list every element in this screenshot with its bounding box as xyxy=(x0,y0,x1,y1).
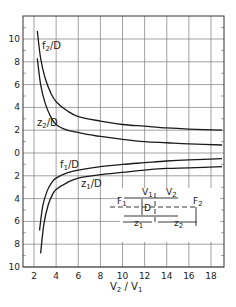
x-tick-label: 12 xyxy=(139,271,150,281)
lens-diagram-inset: V1 V2 F1 F2 D z1 z2 xyxy=(110,187,220,242)
y-tick-label: 0 xyxy=(14,148,20,158)
d-label: D xyxy=(144,203,151,213)
x-tick-label: 8 xyxy=(98,271,104,281)
x-axis-ticks: 24681012141618 xyxy=(31,271,217,281)
y-tick-label: 2 xyxy=(14,171,20,181)
y-tick-label: 6 xyxy=(14,80,20,90)
x-tick-label: 18 xyxy=(205,271,217,281)
x-tick-label: 10 xyxy=(117,271,129,281)
x-axis-label: V2 / V1 xyxy=(110,281,142,294)
curve-label: f2/D xyxy=(42,40,61,53)
y-tick-label: 4 xyxy=(14,194,20,204)
y-axis-ticks: 1086420246810 xyxy=(9,34,21,272)
y-tick-label: 10 xyxy=(9,34,21,44)
curve-label: z1/D xyxy=(81,178,102,191)
x-tick-label: 14 xyxy=(161,271,173,281)
x-tick-label: 2 xyxy=(31,271,37,281)
y-tick-label: 4 xyxy=(14,102,20,112)
y-tick-label: 2 xyxy=(14,125,20,135)
curve-z2-d xyxy=(37,58,222,145)
y-tick-label: 6 xyxy=(14,216,20,226)
curve-f2-d xyxy=(37,31,222,130)
x-tick-label: 16 xyxy=(183,271,195,281)
x-tick-label: 4 xyxy=(53,271,59,281)
y-tick-label: 8 xyxy=(14,239,20,249)
y-tick-label: 8 xyxy=(14,57,20,67)
y-tick-label: 10 xyxy=(9,262,21,272)
curve-label: z2/D xyxy=(37,117,58,130)
chart: 1086420246810 24681012141618 f2/Dz2/Df1/… xyxy=(0,0,236,307)
x-tick-label: 6 xyxy=(75,271,81,281)
